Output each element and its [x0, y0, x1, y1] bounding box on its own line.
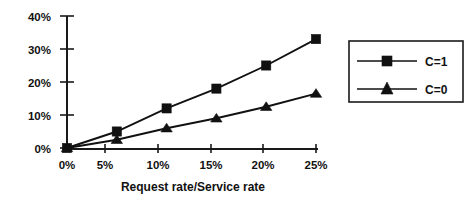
- legend: C=1 C=0: [349, 41, 463, 102]
- chart-figure: 40% 30% 20% 10% 0% 0% 5% 10% 15% 20% 25%…: [0, 0, 470, 198]
- data-point-marker: [162, 104, 171, 113]
- legend-triangle-marker-icon: [381, 82, 393, 94]
- y-tick-label-30: 30%: [28, 44, 51, 56]
- x-tick-label-10: 10%: [146, 159, 169, 171]
- x-tick-label-20: 20%: [251, 159, 274, 171]
- x-axis-title: Request rate/Service rate: [121, 180, 265, 194]
- legend-label-1: C=0: [425, 83, 448, 97]
- y-tick-label-40: 40%: [28, 11, 51, 23]
- legend-entry-0[interactable]: C=1: [357, 55, 448, 69]
- series-markers-0: [62, 35, 320, 153]
- y-axis: 40% 30% 20% 10% 0%: [28, 11, 74, 155]
- y-tick-label-20: 20%: [28, 77, 51, 89]
- x-tick-label-25: 25%: [304, 159, 327, 171]
- legend-square-marker-icon: [382, 56, 392, 66]
- legend-label-0: C=1: [425, 55, 448, 69]
- x-axis: 0% 5% 10% 15% 20% 25% Request rate/Servi…: [59, 144, 328, 194]
- data-point-marker: [262, 61, 271, 70]
- series-line-0: [67, 39, 316, 148]
- data-point-marker: [310, 89, 321, 98]
- y-tick-label-0: 0%: [34, 143, 51, 155]
- series-group: [61, 35, 321, 153]
- data-point-marker: [311, 35, 320, 44]
- x-tick-label-0: 0%: [59, 159, 76, 171]
- series-line-1: [67, 94, 316, 148]
- x-tick-label-15: 15%: [199, 159, 222, 171]
- legend-entry-1[interactable]: C=0: [357, 82, 448, 97]
- y-tick-label-10: 10%: [28, 110, 51, 122]
- x-tick-label-5: 5%: [97, 159, 114, 171]
- data-point-marker: [212, 84, 221, 93]
- line-chart: 40% 30% 20% 10% 0% 0% 5% 10% 15% 20% 25%…: [0, 0, 470, 198]
